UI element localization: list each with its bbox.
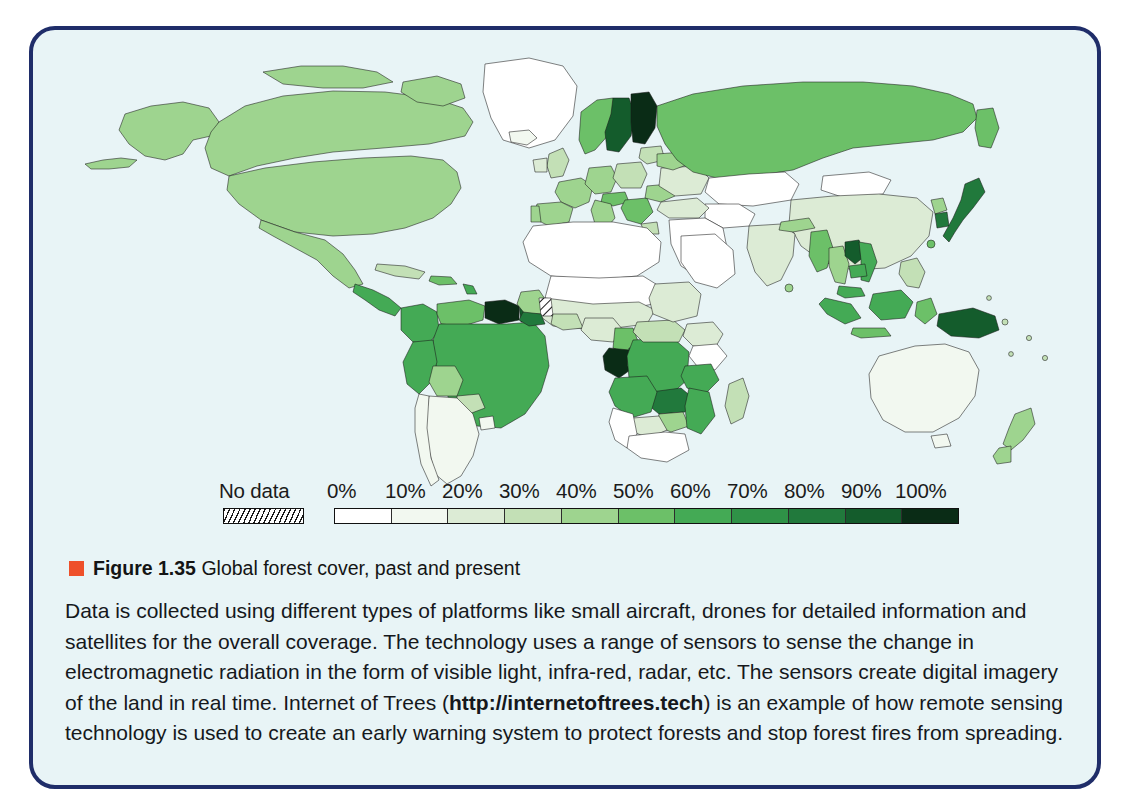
region-hispaniola[interactable] (429, 276, 457, 285)
region-united-kingdom[interactable] (547, 148, 569, 178)
region-turkey[interactable] (657, 198, 709, 218)
region-lesser-antilles[interactable] (463, 284, 477, 294)
legend-band-30 (505, 509, 562, 523)
legend-tick-70: 70% (727, 479, 767, 503)
region-canadian-arctic-islands[interactable] (263, 66, 393, 88)
region-cuba[interactable] (375, 264, 425, 279)
legend-no-data-swatch (223, 508, 304, 524)
region-central-america[interactable] (353, 284, 401, 316)
body-line-1: Data is collected using different types … (65, 599, 876, 622)
legend-band-100 (902, 509, 958, 523)
region-ivory-coast-ghana[interactable] (551, 314, 583, 330)
region-tasmania[interactable] (931, 434, 951, 448)
legend-band-40 (562, 509, 619, 523)
caption-text: Figure 1.35 Global forest cover, past an… (93, 557, 520, 580)
legend-tick-10: 10% (385, 479, 425, 503)
legend-band-90 (846, 509, 903, 523)
region-pacific-island-2[interactable] (1026, 335, 1031, 340)
figure-panel: No data 0% 10% 20% 30% 40% 50% 60% 70% 8… (29, 26, 1101, 789)
region-colombia[interactable] (401, 304, 439, 344)
region-venezuela[interactable] (437, 300, 485, 326)
legend-tick-labels: No data 0% 10% 20% 30% 40% 50% 60% 70% 8… (219, 479, 959, 507)
region-ireland[interactable] (533, 158, 547, 172)
region-central-african-republic[interactable] (633, 320, 685, 342)
region-tanzania[interactable] (681, 364, 719, 394)
region-sulawesi[interactable] (915, 298, 937, 324)
region-new-zealand[interactable] (1003, 408, 1035, 450)
region-pacific-island-4[interactable] (1009, 352, 1014, 357)
region-finland[interactable] (631, 92, 657, 144)
region-north-korea[interactable] (931, 198, 947, 214)
legend-tick-50: 50% (613, 479, 653, 503)
world-choropleth-map[interactable] (33, 36, 1097, 491)
legend-tick-60: 60% (670, 479, 710, 503)
region-aleutians[interactable] (85, 158, 137, 169)
legend-tick-0: 0% (327, 479, 356, 503)
caption-bullet-icon (69, 561, 84, 576)
region-japan[interactable] (943, 178, 985, 242)
legend-color-ramp (334, 508, 959, 524)
figure-caption: Figure 1.35 Global forest cover, past an… (69, 557, 520, 580)
legend-tick-90: 90% (841, 479, 881, 503)
region-sri-lanka[interactable] (785, 284, 793, 292)
region-borneo[interactable] (869, 290, 913, 320)
map-legend: No data 0% 10% 20% 30% 40% 50% 60% 70% 8… (219, 479, 959, 541)
region-india[interactable] (747, 224, 795, 286)
body-line-5-prefix: ( (442, 691, 449, 714)
region-papua-new-guinea[interactable] (937, 308, 999, 338)
region-sudan[interactable] (649, 282, 701, 322)
region-taiwan[interactable] (927, 240, 935, 248)
region-sumatra[interactable] (819, 298, 861, 324)
region-balkans[interactable] (621, 198, 653, 224)
legend-tick-20: 20% (442, 479, 482, 503)
region-java[interactable] (851, 328, 891, 338)
region-poland[interactable] (613, 162, 647, 188)
legend-band-50 (619, 509, 676, 523)
legend-band-10 (392, 509, 449, 523)
legend-band-20 (448, 509, 505, 523)
legend-tick-40: 40% (556, 479, 596, 503)
legend-no-data-label: No data (219, 479, 289, 503)
region-kazakhstan[interactable] (705, 172, 799, 206)
region-australia[interactable] (869, 344, 979, 432)
region-uruguay[interactable] (479, 416, 495, 430)
legend-band-60 (675, 509, 732, 523)
region-malaysia[interactable] (837, 286, 865, 298)
region-alaska[interactable] (119, 102, 219, 160)
legend-tick-30: 30% (499, 479, 539, 503)
body-paragraph: Data is collected using different types … (65, 596, 1067, 749)
region-new-zealand-south[interactable] (993, 446, 1011, 464)
figure-title: Global forest cover, past and present (201, 557, 520, 579)
world-map-container (33, 36, 1097, 491)
region-madagascar[interactable] (725, 378, 749, 424)
figure-number: Figure 1.35 (93, 557, 196, 579)
region-russia[interactable] (657, 82, 977, 178)
body-line-6: create an early warning system to protec… (268, 721, 1063, 744)
region-kamchatka[interactable] (975, 108, 999, 148)
region-guyana-suriname[interactable] (485, 300, 519, 324)
region-south-africa[interactable] (627, 432, 689, 462)
region-portugal[interactable] (531, 206, 541, 222)
legend-band-70 (732, 509, 789, 523)
legend-band-0 (335, 509, 392, 523)
legend-tick-100: 100% (895, 479, 947, 503)
region-cambodia[interactable] (849, 264, 867, 278)
internet-of-trees-link[interactable]: http://internetoftrees.tech (449, 691, 703, 714)
region-pacific-island-1[interactable] (1002, 319, 1008, 325)
region-philippines[interactable] (899, 258, 925, 288)
region-pacific-island-5[interactable] (987, 296, 992, 301)
region-no-data-west-africa[interactable] (539, 298, 553, 316)
legend-band-80 (789, 509, 846, 523)
region-arabia[interactable] (681, 234, 735, 288)
region-south-korea[interactable] (935, 212, 949, 228)
legend-tick-80: 80% (784, 479, 824, 503)
region-mozambique[interactable] (685, 388, 715, 434)
region-pacific-island-3[interactable] (1042, 355, 1047, 360)
region-north-africa[interactable] (523, 222, 661, 280)
